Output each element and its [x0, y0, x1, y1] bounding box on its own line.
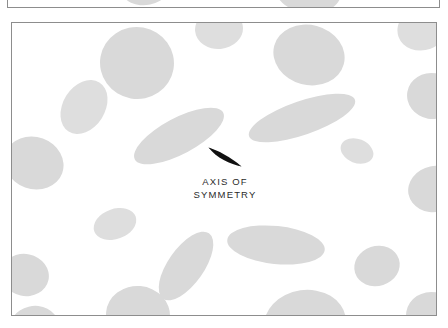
grain-blob: [94, 23, 179, 105]
grain-blob: [12, 128, 71, 197]
grain-blob: [116, 0, 175, 7]
grain-blob: [266, 23, 351, 93]
grain-blob: [349, 240, 405, 292]
grain-blob: [126, 97, 231, 176]
grain-blob: [391, 23, 436, 58]
grain-blob-field: [12, 23, 436, 315]
partial-figure-blobs: [116, 0, 343, 7]
grain-blob: [89, 202, 141, 245]
grain-blob: [193, 23, 244, 51]
grain-blob: [12, 249, 53, 300]
grain-structure-micrograph: AXIS OF SYMMETRY: [11, 22, 437, 316]
grain-blob: [402, 288, 436, 315]
grain-blob: [260, 285, 350, 315]
grain-blob: [225, 221, 326, 269]
grain-blobs: [12, 23, 436, 315]
partial-figure-above: [7, 0, 440, 8]
grain-blob: [272, 0, 343, 7]
grain-blob: [12, 301, 64, 315]
grain-blob: [404, 161, 436, 217]
partial-figure-blob-field: [8, 0, 439, 7]
grain-blob: [403, 69, 436, 123]
grain-blob: [337, 134, 378, 169]
